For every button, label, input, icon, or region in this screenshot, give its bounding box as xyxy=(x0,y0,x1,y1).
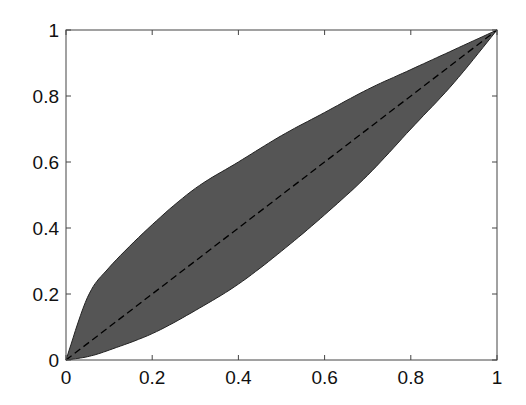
x-tick-label: 0 xyxy=(61,367,72,388)
x-tick-label: 0.8 xyxy=(398,367,424,388)
y-tick-label: 0.4 xyxy=(33,218,60,239)
chart: 00.20.40.60.81 00.20.40.60.81 xyxy=(0,0,526,405)
y-tick-label: 0.8 xyxy=(33,86,59,107)
y-tick-label: 0.6 xyxy=(33,152,59,173)
x-tick-label: 0.4 xyxy=(225,367,252,388)
x-tick-label: 0.2 xyxy=(139,367,165,388)
x-tick-label: 1 xyxy=(492,367,503,388)
y-tick-label: 0 xyxy=(48,350,59,371)
y-tick-label: 0.2 xyxy=(33,284,59,305)
y-tick-label: 1 xyxy=(48,20,59,41)
x-tick-label: 0.6 xyxy=(311,367,337,388)
